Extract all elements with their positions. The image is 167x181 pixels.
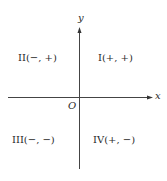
quadrant-i-label: I(+, +) — [98, 53, 133, 63]
quadrant-iv-label: IV(+, −) — [93, 135, 135, 145]
x-axis-label: x — [155, 91, 161, 101]
coordinate-plane-diagram: y x O II(−, +) I(+, +) III(−, −) IV(+, −… — [0, 0, 167, 181]
x-axis-arrow-icon — [147, 96, 153, 100]
x-axis — [8, 96, 153, 100]
origin-label: O — [68, 101, 76, 111]
y-axis-arrow-icon — [78, 27, 82, 33]
axes-graphic — [0, 0, 167, 181]
quadrant-iii-label: III(−, −) — [12, 135, 55, 145]
y-axis-label: y — [78, 13, 84, 23]
quadrant-ii-label: II(−, +) — [18, 53, 57, 63]
